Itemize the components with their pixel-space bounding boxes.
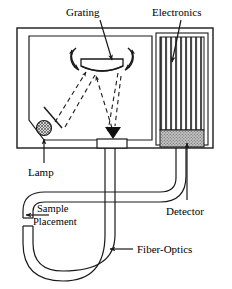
leader-grating	[100, 20, 112, 60]
exit-slit	[97, 127, 127, 148]
electronics-board	[156, 33, 208, 145]
label-sample-line1: Sample	[37, 203, 69, 214]
array-detector	[160, 130, 204, 147]
label-grating: Grating	[66, 6, 100, 18]
label-detector: Detector	[166, 205, 204, 217]
light-source-lamp	[37, 121, 52, 136]
spectrometer-diagram: Grating Electronics Lamp Detector Sample…	[0, 0, 232, 289]
figure-canvas: Grating Electronics Lamp Detector Sample…	[0, 0, 232, 289]
optical-ray-paths	[55, 72, 121, 131]
label-sample-line2: Placement	[33, 216, 77, 227]
label-lamp: Lamp	[28, 166, 54, 178]
label-electronics: Electronics	[152, 6, 201, 18]
diffraction-grating	[81, 59, 123, 71]
label-fiber-optics: Fiber-Optics	[137, 243, 192, 255]
